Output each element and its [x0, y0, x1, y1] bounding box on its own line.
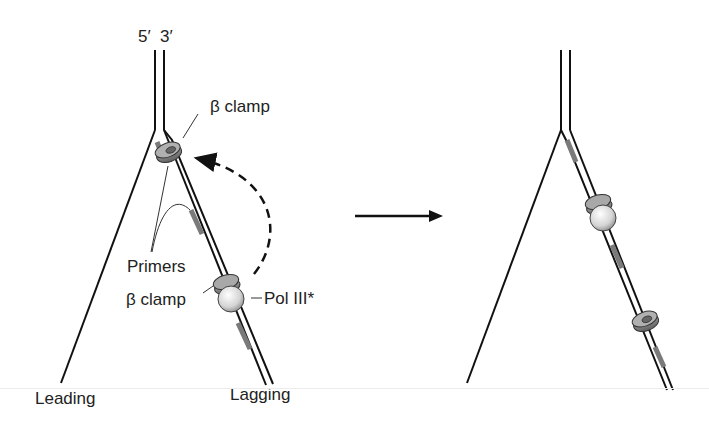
dashed-arrow-icon — [196, 158, 270, 274]
pol-iii-icon — [218, 286, 244, 312]
three-prime-label: 3′ — [160, 27, 173, 46]
right-panel — [467, 50, 673, 390]
parental-duplex — [561, 50, 570, 130]
right-arrow-icon — [355, 210, 443, 222]
left-panel: 5′ 3′ β clamp Primers β clamp Pol III* L… — [35, 27, 314, 408]
beta-clamp-label-top: β clamp — [210, 97, 270, 116]
leader-line — [183, 114, 198, 138]
leading-strand — [467, 130, 561, 383]
primers-label: Primers — [127, 257, 186, 276]
leader-line — [151, 166, 168, 252]
leading-label: Leading — [35, 389, 96, 408]
beta-clamp-label-bottom: β clamp — [126, 290, 186, 309]
pol-iii-label: Pol III* — [264, 289, 314, 308]
parental-duplex — [155, 50, 164, 130]
five-prime-label: 5′ — [138, 27, 151, 46]
leader-line — [203, 286, 213, 293]
replication-fork-diagram: 5′ 3′ β clamp Primers β clamp Pol III* L… — [0, 0, 709, 422]
primer — [238, 323, 250, 349]
leader-line — [152, 204, 190, 252]
bottom-divider — [0, 388, 709, 389]
pol-iii-icon — [590, 205, 616, 231]
